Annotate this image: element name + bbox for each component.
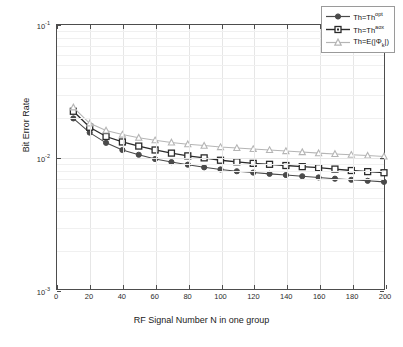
data-point-marker [217, 144, 223, 150]
x-axis-title: RF Signal Number N in one group [0, 315, 403, 325]
x-axis-tick [156, 25, 157, 29]
legend-label-expectation: Th=E(|Φk|) [353, 37, 389, 48]
y-axis-title: Bit Error Rate [21, 45, 31, 205]
gridline-minor-horizontal [57, 188, 384, 189]
x-axis-tick [189, 285, 190, 289]
data-point-marker [381, 179, 386, 184]
legend-entry-expectation[interactable]: Th=E(|Φk|) [325, 36, 389, 49]
series-circle [71, 116, 387, 185]
x-axis-tick [222, 285, 223, 289]
data-point-marker [168, 150, 174, 156]
data-point-marker [136, 143, 142, 149]
data-point-marker [201, 142, 207, 148]
gridline-minor-horizontal [57, 228, 384, 229]
gridline-horizontal [57, 158, 384, 159]
data-point-marker [266, 147, 272, 153]
y-tick-label-1e-3: 10-3 [16, 286, 50, 297]
data-point-marker [332, 151, 338, 157]
legend: Th=Thopt Th=Thaox Th=E(|Φk|) [321, 6, 395, 53]
x-axis-tick [156, 285, 157, 289]
x-tick-label: 200 [365, 292, 403, 301]
data-point-marker [202, 165, 207, 170]
data-point-marker [103, 134, 109, 140]
legend-entry-opt[interactable]: Th=Thopt [325, 10, 389, 23]
gridline-minor-horizontal [57, 211, 384, 212]
gridline-minor-horizontal [57, 55, 384, 56]
gridline-minor-horizontal [57, 78, 384, 79]
x-axis-tick [287, 25, 288, 29]
data-point-marker [299, 149, 305, 155]
x-axis-tick [189, 25, 190, 29]
x-axis-tick [123, 285, 124, 289]
gridline-minor-horizontal [57, 164, 384, 165]
gridline-minor-horizontal [57, 171, 384, 172]
legend-label-aox: Th=Thaox [353, 24, 384, 35]
x-axis-tick [287, 285, 288, 289]
y-axis-tick [380, 158, 384, 159]
data-point-marker [103, 140, 108, 145]
x-axis-tick [353, 285, 354, 289]
gridline-minor-horizontal [57, 251, 384, 252]
x-axis-tick [254, 285, 255, 289]
x-axis-tick [254, 25, 255, 29]
x-axis-tick [320, 285, 321, 289]
x-axis-tick [90, 25, 91, 29]
y-tick-label-1e-1: 10-1 [16, 20, 50, 31]
data-point-marker [103, 127, 109, 133]
gridline-minor-horizontal [57, 198, 384, 199]
legend-marker-square-icon [325, 24, 351, 35]
legend-marker-triangle-icon [325, 37, 351, 48]
gridline-minor-horizontal [57, 95, 384, 96]
series-triangle [70, 104, 387, 159]
gridline-minor-horizontal [57, 118, 384, 119]
x-axis-tick [123, 25, 124, 29]
data-point-marker [136, 135, 142, 141]
data-point-marker [234, 145, 240, 151]
x-axis-tick [57, 285, 58, 289]
data-point-marker [70, 104, 76, 110]
legend-entry-aox[interactable]: Th=Thaox [325, 23, 389, 36]
y-axis-tick [57, 158, 61, 159]
legend-marker-circle-icon [325, 11, 351, 22]
gridline-minor-horizontal [57, 65, 384, 66]
data-point-marker [168, 139, 174, 145]
gridline-minor-horizontal [57, 179, 384, 180]
x-axis-tick [222, 25, 223, 29]
data-point-marker [267, 171, 272, 176]
data-point-marker [136, 152, 141, 157]
legend-label-opt: Th=Thopt [353, 11, 383, 22]
x-axis-tick [386, 285, 387, 289]
plot-area [56, 24, 385, 290]
y-axis-tick [57, 25, 61, 26]
x-axis-tick [90, 285, 91, 289]
chart-figure: 020406080100120140160180200 10-1 10-2 10… [0, 0, 403, 347]
